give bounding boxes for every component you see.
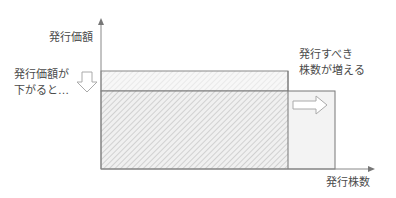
original-price-band	[101, 71, 288, 91]
right-note-line-2: 株数が増える	[299, 63, 365, 78]
y-axis-label: 発行価額	[49, 30, 93, 45]
x-axis-label: 発行株数	[326, 175, 370, 190]
right-note-line-1: 発行すべき	[299, 47, 353, 62]
left-note-line-1: 発行価額が	[14, 67, 69, 82]
reduced-price-region	[101, 91, 288, 169]
x-axis-arrowhead	[368, 166, 375, 172]
left-note-line-2: 下がると…	[14, 83, 69, 98]
down-arrow-icon	[77, 72, 97, 92]
y-axis-arrowhead	[98, 18, 104, 25]
